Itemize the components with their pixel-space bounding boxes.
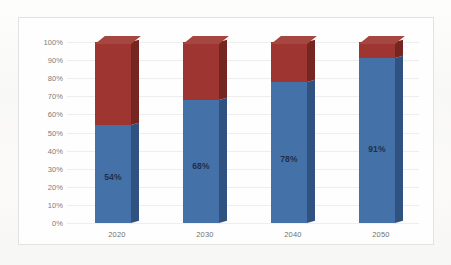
y-axis: 100%90%80%70%60%50%40%30%20%10%0% [21, 42, 65, 223]
plot-area: 54%202068%203078%204091%2050 [67, 42, 419, 223]
bar-segment-red[interactable] [95, 42, 131, 125]
stacked-bar[interactable]: 91% [359, 42, 395, 223]
y-axis-tick-label: 40% [48, 146, 63, 155]
data-label-blue: 91% [359, 144, 395, 154]
bar-segment-blue[interactable]: 68% [183, 100, 219, 223]
bar-segment-red[interactable] [183, 42, 219, 100]
bar-face-front [271, 42, 307, 82]
y-axis-tick-label: 100% [43, 38, 63, 47]
bar-face-front [95, 42, 131, 125]
bar-face-side [219, 40, 227, 100]
bar-face-front [183, 42, 219, 100]
bar-face-side [219, 98, 227, 223]
bar-segment-blue[interactable]: 78% [271, 82, 307, 223]
bar-face-front [359, 58, 395, 223]
bar-group-2040[interactable]: 78% [271, 42, 315, 223]
bar-face-side [307, 80, 315, 223]
bar-face-front [359, 42, 395, 58]
gridline [67, 223, 419, 224]
bar-segment-blue[interactable]: 91% [359, 58, 395, 223]
y-axis-tick-label: 70% [48, 92, 63, 101]
y-axis-tick-label: 0% [52, 219, 63, 228]
bar-face-side [131, 123, 139, 223]
bar-segment-red[interactable] [271, 42, 307, 82]
x-axis-tick-label: 2050 [359, 230, 403, 239]
bar-face-side [131, 40, 139, 126]
x-axis-tick-label: 2020 [95, 230, 139, 239]
bar-face-front [271, 82, 307, 223]
y-axis-tick-label: 20% [48, 182, 63, 191]
y-axis-tick-label: 50% [48, 128, 63, 137]
bar-group-2050[interactable]: 91% [359, 42, 403, 223]
bar-group-2030[interactable]: 68% [183, 42, 227, 223]
bar-face-side [395, 56, 403, 223]
bar-group-2020[interactable]: 54% [95, 42, 139, 223]
bar-face-side [307, 40, 315, 82]
data-label-blue: 78% [271, 154, 307, 164]
y-axis-tick-label: 90% [48, 56, 63, 65]
stacked-bar[interactable]: 54% [95, 42, 131, 223]
data-label-blue: 54% [95, 172, 131, 182]
data-label-blue: 68% [183, 161, 219, 171]
bar-segment-blue[interactable]: 54% [95, 125, 131, 223]
stacked-bar[interactable]: 78% [271, 42, 307, 223]
y-axis-tick-label: 60% [48, 110, 63, 119]
bar-segment-red[interactable] [359, 42, 395, 58]
chart-frame: 100%90%80%70%60%50%40%30%20%10%0% 54%202… [18, 17, 434, 245]
x-axis-tick-label: 2040 [271, 230, 315, 239]
x-axis-tick-label: 2030 [183, 230, 227, 239]
y-axis-tick-label: 10% [48, 200, 63, 209]
stacked-bar[interactable]: 68% [183, 42, 219, 223]
y-axis-tick-label: 30% [48, 164, 63, 173]
y-axis-tick-label: 80% [48, 74, 63, 83]
